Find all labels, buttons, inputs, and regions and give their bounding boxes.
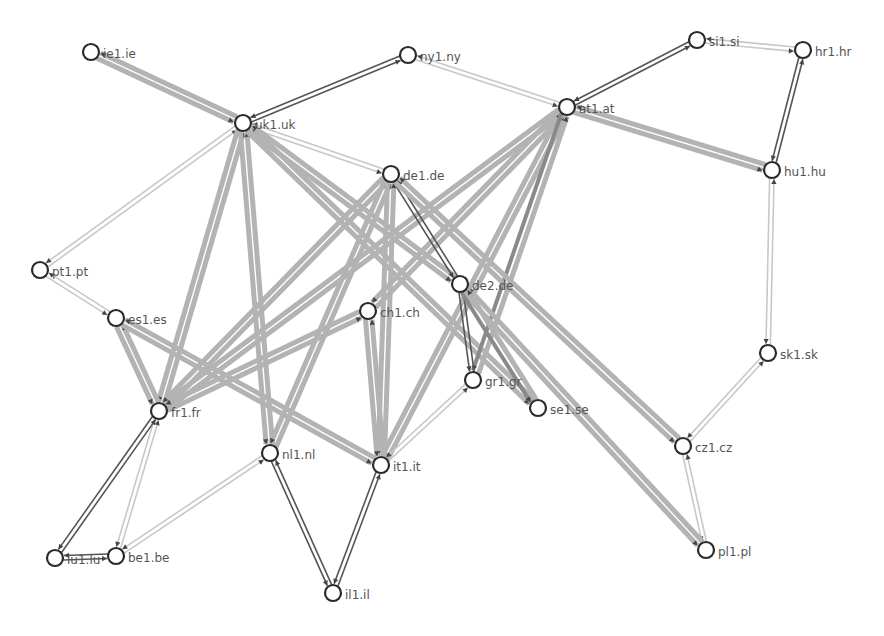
edge-hr1-hu1[interactable] bbox=[771, 57, 804, 163]
node-circle-icon[interactable] bbox=[108, 310, 124, 326]
node-label: sk1.sk bbox=[780, 348, 818, 362]
edge-fr1-lu1[interactable] bbox=[58, 416, 155, 552]
edge-lane bbox=[334, 472, 376, 584]
edge-lane bbox=[687, 357, 761, 437]
edge-lane bbox=[250, 56, 399, 118]
edge-it1-il1[interactable] bbox=[333, 472, 380, 587]
edge-lane bbox=[575, 46, 690, 105]
node-circle-icon[interactable] bbox=[530, 400, 546, 416]
node-circle-icon[interactable] bbox=[235, 115, 251, 131]
node-label: ch1.ch bbox=[380, 306, 420, 320]
node-hr1[interactable]: hr1.hr bbox=[795, 42, 852, 59]
edge-ie1-uk1[interactable] bbox=[97, 53, 237, 123]
node-pt1[interactable]: pt1.pt bbox=[32, 262, 88, 279]
node-circle-icon[interactable] bbox=[108, 548, 124, 564]
node-nl1[interactable]: nl1.nl bbox=[262, 445, 315, 462]
node-ch1[interactable]: ch1.ch bbox=[360, 303, 420, 320]
edge-at1-si1[interactable] bbox=[574, 42, 690, 106]
edge-cz1-pl1[interactable] bbox=[683, 454, 707, 541]
node-es1[interactable]: es1.es bbox=[108, 310, 167, 327]
arrowhead-icon bbox=[102, 556, 107, 561]
node-label: si1.si bbox=[709, 35, 740, 49]
node-circle-icon[interactable] bbox=[760, 345, 776, 361]
node-il1[interactable]: il1.il bbox=[325, 585, 370, 602]
node-gr1[interactable]: gr1.gr bbox=[465, 372, 522, 389]
edge-lane bbox=[276, 460, 332, 584]
node-label: gr1.gr bbox=[485, 375, 522, 389]
edge-hu1-sk1[interactable] bbox=[764, 178, 777, 345]
node-de1[interactable]: de1.de bbox=[383, 166, 444, 183]
node-label: nl1.nl bbox=[282, 448, 315, 462]
edge-at1-fr1[interactable] bbox=[164, 109, 561, 409]
node-circle-icon[interactable] bbox=[32, 262, 48, 278]
node-cz1[interactable]: cz1.cz bbox=[675, 438, 732, 455]
node-label: il1.il bbox=[345, 588, 370, 602]
node-circle-icon[interactable] bbox=[698, 542, 714, 558]
node-label: cz1.cz bbox=[695, 441, 732, 455]
node-fr1[interactable]: fr1.fr bbox=[151, 403, 201, 420]
node-circle-icon[interactable] bbox=[360, 303, 376, 319]
node-label: ie1.ie bbox=[103, 47, 136, 61]
edge-lane bbox=[766, 178, 770, 344]
node-circle-icon[interactable] bbox=[83, 44, 99, 60]
edge-lane bbox=[772, 57, 799, 161]
edge-lane bbox=[167, 183, 387, 408]
edge-lane bbox=[116, 418, 154, 547]
edge-lane bbox=[415, 60, 558, 107]
node-label: be1.be bbox=[128, 551, 169, 565]
node-circle-icon[interactable] bbox=[47, 550, 63, 566]
node-ie1[interactable]: ie1.ie bbox=[83, 44, 136, 61]
edge-de2-pl1[interactable] bbox=[463, 288, 703, 545]
node-be1[interactable]: be1.be bbox=[108, 548, 169, 565]
node-at1[interactable]: at1.at bbox=[559, 99, 615, 116]
node-label: fr1.fr bbox=[171, 406, 201, 420]
node-circle-icon[interactable] bbox=[151, 403, 167, 419]
edge-uk1-ny1[interactable] bbox=[250, 56, 400, 122]
node-pl1[interactable]: pl1.pl bbox=[698, 542, 751, 559]
node-circle-icon[interactable] bbox=[325, 585, 341, 601]
node-circle-icon[interactable] bbox=[559, 99, 575, 115]
node-se1[interactable]: se1.se bbox=[530, 400, 589, 417]
node-circle-icon[interactable] bbox=[400, 47, 416, 63]
node-circle-icon[interactable] bbox=[373, 457, 389, 473]
edge-lane bbox=[46, 276, 108, 315]
edge-lane bbox=[690, 361, 764, 441]
node-ny1[interactable]: ny1.ny bbox=[400, 47, 461, 64]
node-label: hr1.hr bbox=[815, 45, 852, 59]
node-it1[interactable]: it1.it bbox=[373, 457, 421, 474]
edge-lane bbox=[97, 58, 234, 122]
edge-lane bbox=[124, 460, 264, 554]
node-de2[interactable]: de2.de bbox=[452, 276, 513, 293]
node-lu1[interactable]: lu1.lu bbox=[47, 550, 100, 567]
node-hu1[interactable]: hu1.hu bbox=[764, 162, 826, 179]
node-label: lu1.lu bbox=[67, 553, 100, 567]
node-sk1[interactable]: sk1.sk bbox=[760, 345, 818, 362]
edge-lane bbox=[101, 53, 238, 117]
edge-lane bbox=[776, 59, 803, 163]
edge-pt1-es1[interactable] bbox=[46, 273, 111, 315]
node-circle-icon[interactable] bbox=[764, 162, 780, 178]
node-circle-icon[interactable] bbox=[689, 32, 705, 48]
node-label: pl1.pl bbox=[718, 545, 751, 559]
node-label: ny1.ny bbox=[420, 50, 461, 64]
edge-lane bbox=[574, 42, 689, 101]
edge-lane bbox=[770, 179, 774, 345]
arrowhead-icon bbox=[764, 339, 769, 344]
node-circle-icon[interactable] bbox=[452, 276, 468, 292]
node-si1[interactable]: si1.si bbox=[689, 32, 740, 49]
node-circle-icon[interactable] bbox=[675, 438, 691, 454]
edge-lane bbox=[167, 115, 561, 409]
arrowhead-icon bbox=[686, 454, 691, 459]
node-circle-icon[interactable] bbox=[795, 42, 811, 58]
edge-lane bbox=[58, 416, 152, 549]
edge-sk1-cz1[interactable] bbox=[687, 357, 763, 441]
edges-layer bbox=[46, 37, 805, 587]
edge-lane bbox=[463, 292, 697, 546]
edge-nl1-il1[interactable] bbox=[271, 460, 331, 585]
node-circle-icon[interactable] bbox=[383, 166, 399, 182]
node-label: de2.de bbox=[472, 279, 513, 293]
node-circle-icon[interactable] bbox=[465, 372, 481, 388]
node-uk1[interactable]: uk1.uk bbox=[235, 115, 296, 132]
node-label: pt1.pt bbox=[52, 265, 88, 279]
node-circle-icon[interactable] bbox=[262, 445, 278, 461]
